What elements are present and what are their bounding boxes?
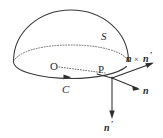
label-vector-nprime: n ′ [104, 120, 113, 133]
label-point-P: P [98, 63, 104, 75]
vector-nprime-arrowhead [109, 111, 114, 120]
label-vector-n-cross-nprime: n × n ′ [126, 51, 152, 64]
vector-n-cross-nprime-shaft [112, 64, 152, 79]
vector-n-arrowhead [132, 86, 140, 91]
hemisphere-outline [14, 10, 129, 62]
hemisphere-vector-diagram: S O P C n × n ′ n n ′ [0, 0, 163, 138]
svg-text:′: ′ [111, 120, 113, 129]
label-centre-O: O [50, 60, 58, 72]
equator-back-dotted-arc [14, 45, 129, 62]
svg-text:n: n [143, 53, 149, 64]
svg-text:′: ′ [150, 51, 152, 60]
label-surface-S: S [101, 30, 107, 42]
svg-text:n: n [104, 122, 110, 133]
label-vector-n: n [143, 85, 149, 96]
label-curve-C: C [62, 83, 70, 95]
boundary-curve-C [14, 62, 127, 79]
figure-container: S O P C n × n ′ n n ′ [0, 0, 163, 138]
svg-text:n: n [126, 53, 132, 64]
svg-text:×: × [134, 55, 139, 64]
